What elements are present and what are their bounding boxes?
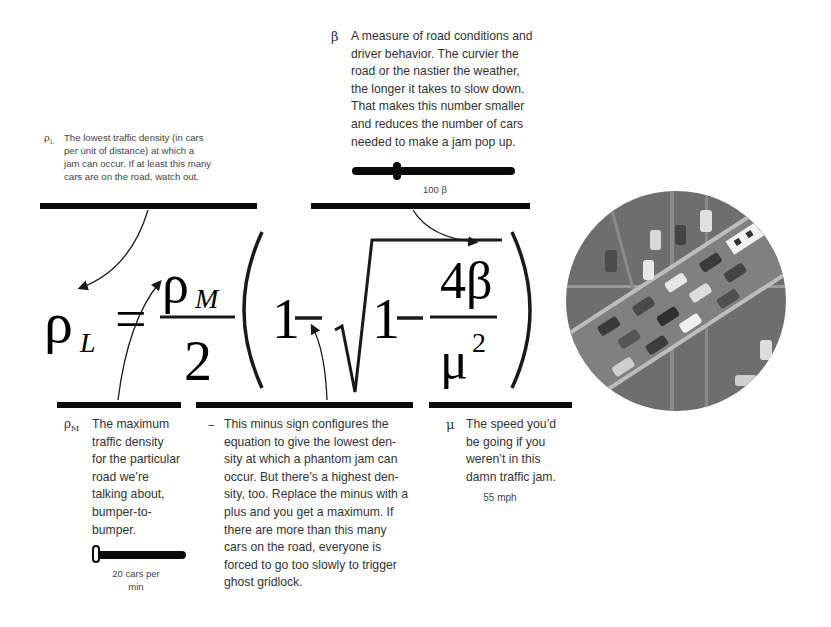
minus-text: This minus sign configures the equation …: [224, 416, 448, 592]
note-beta: β A measure of road conditions and drive…: [331, 28, 571, 151]
eq-numerator: ρ: [162, 254, 189, 314]
beta-slider-value: 100 β: [410, 184, 460, 195]
rho-l-symbol: ρL: [44, 131, 54, 148]
rho-m-slider[interactable]: [92, 551, 186, 559]
minus-symbol: –: [208, 416, 215, 434]
rho-l-text: The lowest traffic density (in cars per …: [64, 131, 274, 183]
note-minus: – This minus sign configures the equatio…: [208, 416, 448, 592]
arrow-beta: [413, 210, 476, 242]
rho-m-text: The maximum traffic density for the part…: [92, 416, 204, 539]
top-bar-rho-l: [40, 203, 257, 209]
eq-denominator: 2: [184, 330, 212, 392]
top-bar-beta: [311, 203, 530, 209]
beta-slider[interactable]: [352, 167, 515, 175]
mu-text: The speed you’d be going if you weren’t …: [466, 416, 586, 486]
eq-frac-den-exp: 2: [472, 327, 486, 358]
note-mu: μ The speed you’d be going if you weren’…: [446, 416, 586, 486]
bottom-bar-mu: [429, 402, 572, 408]
rho-m-slider-handle[interactable]: [92, 545, 100, 563]
mu-symbol: μ: [446, 416, 454, 434]
eq-lhs-sub: L: [79, 327, 96, 358]
note-rho-l: ρL The lowest traffic density (in cars p…: [44, 131, 274, 183]
arrow-rho-l: [80, 210, 148, 288]
note-rho-m: ρM The maximum traffic density for the p…: [64, 416, 204, 539]
eq-frac-den: μ: [440, 332, 468, 389]
traffic-aerial-photo: [565, 190, 787, 412]
eq-numerator-sub: M: [194, 283, 220, 314]
beta-slider-handle[interactable]: [393, 162, 401, 180]
rho-m-slider-value: 20 cars per min: [96, 567, 176, 593]
rho-m-symbol: ρM: [64, 416, 79, 438]
equation: ρ L = ρ M 2 1 1 4β μ 2: [30, 210, 570, 400]
beta-symbol: β: [331, 28, 339, 46]
mu-value: 55 mph: [470, 492, 530, 503]
arrow-minus: [312, 326, 327, 400]
bottom-bar-minus: [196, 402, 413, 408]
eq-one-b: 1: [372, 288, 400, 350]
eq-lhs: ρ: [44, 290, 73, 355]
bottom-bar-rho-m: [57, 402, 181, 408]
beta-text: A measure of road conditions and driver …: [351, 28, 571, 151]
eq-frac-num: 4β: [440, 252, 492, 309]
